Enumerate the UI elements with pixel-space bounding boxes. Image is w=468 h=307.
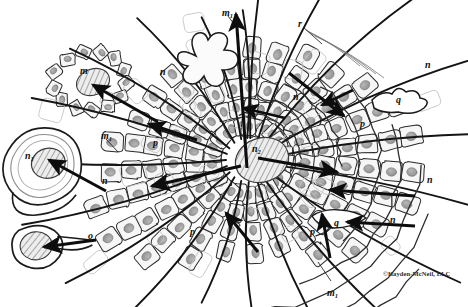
label-q-lower: q — [334, 218, 339, 228]
label-m1-left: m1 — [101, 131, 112, 143]
label-subscript: 1 — [335, 292, 338, 299]
label-n-upper-right: n — [425, 60, 431, 70]
leader-r — [303, 27, 322, 44]
label-subscript: 1 — [31, 155, 34, 162]
label-n-upper-left: n — [160, 67, 166, 77]
label-p-lower-right: p — [310, 227, 315, 237]
label-p-left: p — [153, 138, 158, 148]
label-o: o — [88, 231, 93, 241]
label-p-right: p — [360, 119, 365, 129]
label-r: r — [298, 19, 302, 29]
label-p-lower: p — [190, 227, 195, 237]
label-n1: n1 — [25, 151, 34, 163]
label-n2: n2 — [252, 144, 261, 156]
label-q-right: q — [396, 95, 401, 105]
label-m1-bottom: m1 — [327, 288, 338, 300]
label-subscript: 2 — [258, 148, 261, 155]
copyright-credit: ©Hayden-McNeil, LLC — [383, 270, 450, 277]
histology-illustration — [0, 0, 468, 307]
label-n-mid-left: n — [102, 176, 108, 186]
label-n-mid-right: n — [427, 175, 433, 185]
leader-m1-bottom — [318, 262, 331, 281]
figure-canvas: m1rnnnmqpm1pn1n2nnopqpnm1 ©Hayden-McNeil… — [0, 0, 468, 307]
label-m-top: m1 — [222, 8, 233, 20]
label-m-left: m — [80, 66, 88, 76]
label-n-upper-mid: n — [293, 92, 299, 102]
label-n-lower-right: n — [390, 215, 396, 225]
label-subscript: 1 — [109, 135, 112, 142]
label-subscript: 1 — [230, 12, 233, 19]
